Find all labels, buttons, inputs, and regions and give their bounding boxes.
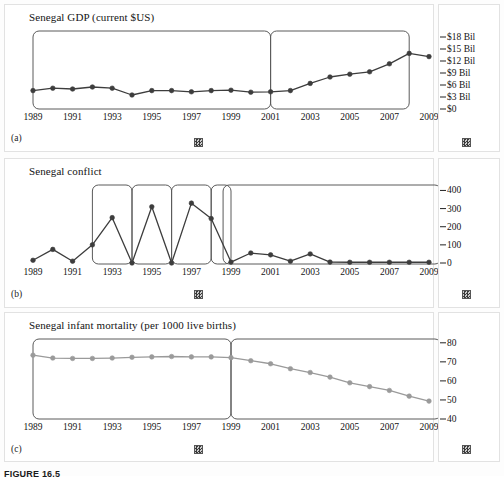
data-point xyxy=(427,260,432,265)
y-axis-conflict: 4003002001000 xyxy=(439,159,501,309)
x-axis-tick-label: 1993 xyxy=(103,267,122,277)
data-point xyxy=(387,260,392,265)
y-axis-tick-label: 60 xyxy=(447,376,457,386)
data-point xyxy=(70,87,75,92)
y-axis-tick-label: $12 Bil xyxy=(447,56,475,66)
highlight-box-1989-1999 xyxy=(33,339,231,419)
y-axis-tick-label: $0 xyxy=(447,104,457,114)
x-axis-tick-label: 1991 xyxy=(63,267,82,277)
plot-area-infant-mortality: 1989199119931995199719992001200320052007… xyxy=(5,313,435,463)
x-axis-tick-label: 1989 xyxy=(24,112,43,122)
highlight-box-1996-1998 xyxy=(172,185,212,264)
chart-panel-a: Senegal GDP (current $US) 19891991199319… xyxy=(4,4,434,152)
data-point xyxy=(288,259,293,264)
y-axis-tick-label: 50 xyxy=(447,395,457,405)
data-point xyxy=(249,251,254,256)
highlight-box-1999-2009 xyxy=(223,185,441,264)
x-axis-tick-label: 2009 xyxy=(420,267,439,277)
data-point xyxy=(348,381,353,386)
chart-panel-b: Senegal conflict 19891991199319951997199… xyxy=(4,158,434,308)
data-point xyxy=(130,93,135,98)
x-axis-tick-label: 2005 xyxy=(340,267,359,277)
data-point xyxy=(51,86,56,91)
x-axis-tick-label: 1995 xyxy=(142,267,161,277)
data-point xyxy=(407,394,412,399)
x-axis-tick-label: 1995 xyxy=(142,112,161,122)
x-axis-tick-label: 1999 xyxy=(222,422,241,432)
data-point xyxy=(328,375,333,380)
y-axis-tick-label: 40 xyxy=(447,414,457,424)
data-point xyxy=(308,370,313,375)
data-point xyxy=(328,260,333,265)
chart-panel-a-axis: $18 Bil$15 Bil$12 Bil$9 Bil$6 Bil$3 Bil$… xyxy=(438,4,500,152)
x-axis-tick-label: 2007 xyxy=(380,112,399,122)
data-point xyxy=(288,88,293,93)
x-axis-tick-label: 2009 xyxy=(420,112,439,122)
x-axis-tick-label: 2009 xyxy=(420,422,439,432)
data-point xyxy=(189,90,194,95)
panel-letter-a: (a) xyxy=(11,133,22,143)
highlight-box-1992-1994 xyxy=(92,185,132,264)
data-point xyxy=(130,355,135,360)
data-point xyxy=(407,51,412,56)
x-axis-tick-label: 1997 xyxy=(182,422,201,432)
x-axis-tick-label: 2005 xyxy=(340,112,359,122)
x-axis-tick-label: 2007 xyxy=(380,422,399,432)
checkered-square-glyph xyxy=(462,138,471,147)
panel-letter-c: (c) xyxy=(11,444,22,454)
data-point xyxy=(367,260,372,265)
data-point xyxy=(229,260,234,265)
x-axis-tick-label: 1991 xyxy=(63,422,82,432)
x-axis-tick-label: 2003 xyxy=(301,267,320,277)
x-axis-tick-label: 2007 xyxy=(380,267,399,277)
plot-area-conflict: 1989199119931995199719992001200320052007… xyxy=(5,159,435,309)
data-point xyxy=(51,356,56,361)
data-point xyxy=(229,355,234,360)
data-point xyxy=(367,384,372,389)
x-axis-tick-label: 1999 xyxy=(222,267,241,277)
x-axis-tick-label: 2005 xyxy=(340,422,359,432)
data-point xyxy=(169,261,174,266)
chart-panel-b-axis: 4003002001000 xyxy=(438,158,500,308)
y-axis-gdp: $18 Bil$15 Bil$12 Bil$9 Bil$6 Bil$3 Bil$… xyxy=(439,5,501,153)
data-point xyxy=(110,356,115,361)
y-axis-tick-label: 400 xyxy=(447,185,461,195)
data-point xyxy=(110,86,115,91)
data-point xyxy=(387,388,392,393)
checkered-square-glyph xyxy=(194,138,203,147)
data-point xyxy=(268,90,273,95)
data-point xyxy=(328,75,333,80)
y-axis-tick-label: 70 xyxy=(447,357,457,367)
x-axis-tick-label: 1993 xyxy=(103,422,122,432)
x-axis-tick-label: 1997 xyxy=(182,112,201,122)
data-point xyxy=(427,54,432,59)
data-point xyxy=(90,356,95,361)
y-axis-tick-label: 300 xyxy=(447,204,461,214)
y-axis-tick-label: 200 xyxy=(447,222,461,232)
x-axis-tick-label: 2001 xyxy=(261,112,280,122)
chart-panel-c-axis: 8070605040 xyxy=(438,312,500,462)
data-point xyxy=(268,253,273,258)
data-point xyxy=(348,72,353,77)
y-axis-tick-label: 100 xyxy=(447,240,461,250)
data-point xyxy=(31,88,36,93)
figure-caption: FIGURE 16.5 xyxy=(4,469,60,479)
x-axis-tick-label: 1989 xyxy=(24,267,43,277)
highlight-box-2001-2008 xyxy=(271,31,410,109)
data-point xyxy=(427,399,432,404)
checkered-square-glyph xyxy=(462,290,471,299)
highlight-box-1994-1996 xyxy=(132,185,172,264)
x-axis-tick-label: 2001 xyxy=(261,422,280,432)
x-axis-tick-label: 2003 xyxy=(301,422,320,432)
data-point xyxy=(249,358,254,363)
data-point xyxy=(150,204,155,209)
data-point xyxy=(169,88,174,93)
data-point xyxy=(387,62,392,67)
data-point xyxy=(51,247,56,252)
data-point xyxy=(209,355,214,360)
data-point xyxy=(31,258,36,263)
x-axis-tick-label: 1989 xyxy=(24,422,43,432)
data-point xyxy=(169,354,174,359)
checkered-square-glyph xyxy=(194,445,203,454)
